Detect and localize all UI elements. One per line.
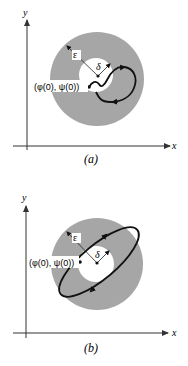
initial-point-label: (φ(0), ψ(0)) (34, 82, 79, 92)
delta-label: δ (95, 249, 100, 260)
epsilon-label: ε (73, 49, 77, 60)
caption-a: (a) (84, 152, 98, 166)
caption-b: (b) (84, 341, 98, 355)
epsilon-label: ε (73, 232, 77, 243)
panel-a: y x ε δ (φ(0), ψ(0)) (a) (13, 7, 177, 166)
y-axis-label: y (21, 192, 27, 203)
x-axis-label: x (171, 140, 177, 151)
initial-point-label: (φ(0), ψ(0)) (29, 258, 74, 268)
equilibrium-point (96, 74, 99, 77)
y-axis-label: y (22, 7, 28, 18)
x-axis-label: x (171, 327, 177, 338)
panel-b: y x ε δ (φ(0), ψ(0)) (b) (13, 192, 177, 355)
delta-label: δ (96, 61, 101, 72)
stability-diagram: y x ε δ (φ(0), ψ(0)) (a) y x (0, 0, 188, 366)
equilibrium-point (95, 261, 98, 264)
